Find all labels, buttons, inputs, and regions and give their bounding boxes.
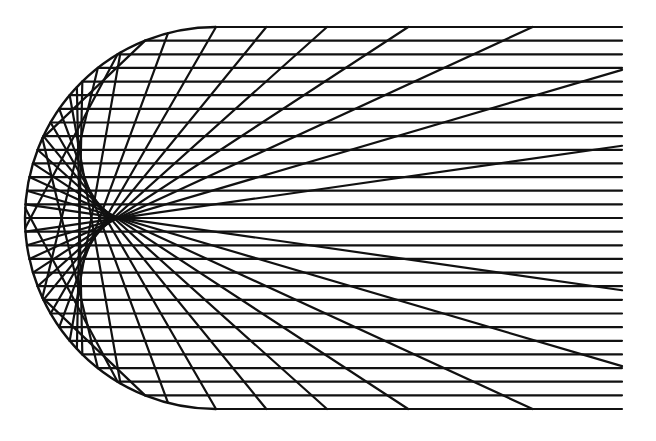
reflected-ray [59, 109, 168, 403]
reflected-ray [59, 33, 168, 327]
reflected-ray [42, 298, 145, 396]
caustic-diagram [0, 0, 656, 441]
